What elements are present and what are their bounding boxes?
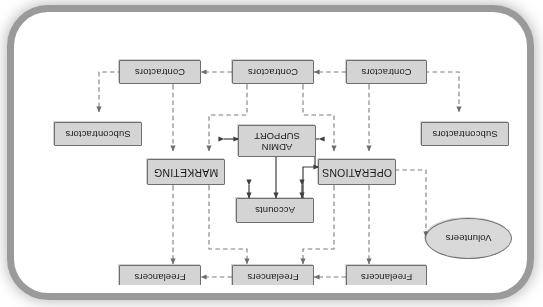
node-label: Subcontractors: [65, 129, 130, 139]
node-label: Freelancers: [247, 272, 298, 282]
node-label: MARKETING: [154, 167, 218, 178]
node-label: Freelancers: [361, 272, 412, 282]
node-accounts[interactable]: Accounts: [236, 198, 314, 223]
node-label: Volunteers: [446, 234, 492, 244]
node-freelancers-center[interactable]: Freelancers: [232, 265, 314, 285]
node-label: Contractors: [135, 67, 185, 77]
node-marketing[interactable]: MARKETING: [147, 159, 225, 185]
node-label: OPERATIONS: [322, 167, 392, 178]
node-volunteers[interactable]: Volunteers: [425, 218, 512, 259]
node-subcontractors-left[interactable]: Subcontractors: [421, 122, 509, 146]
diagram-page: Freelancers Freelancers Freelancers Volu…: [0, 0, 543, 307]
node-freelancers-left[interactable]: Freelancers: [346, 265, 427, 285]
node-subcontractors-right[interactable]: Subcontractors: [54, 122, 142, 146]
diagram-frame: Freelancers Freelancers Freelancers Volu…: [22, 20, 519, 285]
node-label-line-1: ADMIN: [262, 141, 293, 152]
node-contractors-left[interactable]: Contractors: [346, 60, 427, 84]
node-label: Subcontractors: [432, 129, 497, 139]
node-freelancers-right[interactable]: Freelancers: [119, 265, 201, 285]
node-operations[interactable]: OPERATIONS: [318, 159, 396, 185]
diagram-canvas-rotated: Freelancers Freelancers Freelancers Volu…: [22, 20, 519, 285]
node-label-line-2: SUPPORT: [254, 130, 300, 141]
node-label: Contractors: [248, 67, 298, 77]
node-admin-support[interactable]: ADMIN SUPPORT: [238, 125, 316, 157]
node-label: Contractors: [361, 67, 411, 77]
node-contractors-center[interactable]: Contractors: [232, 60, 314, 84]
node-contractors-right[interactable]: Contractors: [119, 60, 201, 84]
node-label: Freelancers: [134, 272, 185, 282]
node-label: Accounts: [255, 206, 295, 216]
